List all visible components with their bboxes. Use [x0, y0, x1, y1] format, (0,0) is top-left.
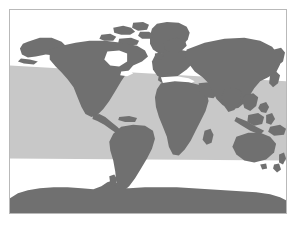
map-frame: [9, 9, 287, 214]
world-map-canvas: [10, 10, 286, 213]
figure-root: World map with shaded latitudinal band: [0, 0, 299, 225]
